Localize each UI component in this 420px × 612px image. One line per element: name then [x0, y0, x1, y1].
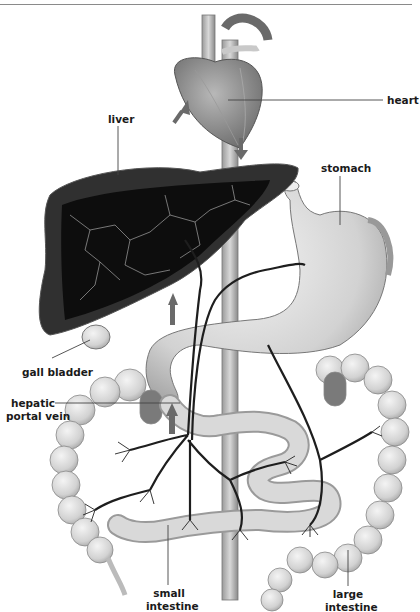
heart-organ	[174, 18, 268, 148]
gall-bladder-organ	[82, 325, 110, 349]
label-hepatic-portal-vein: hepatic portal vein	[6, 397, 60, 422]
liver-organ	[39, 164, 298, 335]
appendix	[108, 558, 125, 595]
label-stomach: stomach	[321, 162, 371, 175]
label-line: portal vein	[6, 410, 60, 423]
label-gall-bladder: gall bladder	[22, 366, 93, 379]
arrow-up-icon	[168, 293, 178, 305]
label-line: small	[146, 587, 192, 600]
label-line: hepatic	[6, 397, 60, 410]
anatomy-illustration	[0, 0, 420, 612]
label-line: intestine	[325, 601, 371, 612]
leader-gall-bladder	[52, 340, 90, 358]
label-small-intestine: small intestine	[146, 587, 192, 612]
label-line: large	[325, 588, 371, 601]
label-liver: liver	[108, 113, 134, 126]
label-line: intestine	[146, 600, 192, 612]
label-large-intestine: large intestine	[325, 588, 371, 612]
diagram-canvas: heart liver stomach gall bladder hepatic…	[0, 0, 420, 612]
label-heart: heart	[387, 94, 419, 107]
